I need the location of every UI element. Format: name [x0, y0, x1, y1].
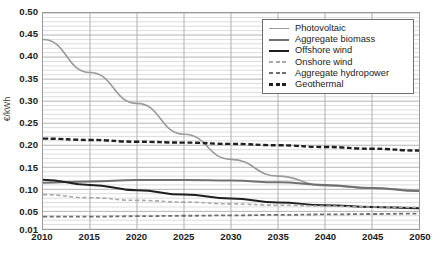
legend-label: Geothermal — [295, 79, 344, 90]
x-tick-2035: 2035 — [255, 232, 301, 242]
x-tick-2045: 2045 — [350, 232, 396, 242]
y-axis-tick-labels: 0.010.050.100.150.200.250.300.350.400.45… — [0, 0, 38, 253]
legend-swatch-icon — [268, 80, 290, 90]
legend-label: Aggregate hydropower — [295, 68, 389, 79]
x-tick-2015: 2015 — [66, 232, 112, 242]
legend-swatch-icon — [268, 57, 290, 67]
y-tick-0-35: 0.35 — [2, 74, 38, 84]
x-tick-2030: 2030 — [208, 232, 254, 242]
y-tick-0-40: 0.40 — [2, 51, 38, 61]
series-line-onshore-wind — [43, 195, 419, 208]
x-tick-2050: 2050 — [397, 232, 435, 242]
legend-label: Photovoltaic — [295, 23, 346, 34]
y-tick-0-50: 0.50 — [2, 7, 38, 17]
legend-swatch-icon — [268, 46, 290, 56]
x-axis-tick-labels: 201020152020202520302035204020452050 — [0, 232, 427, 250]
legend-item-aggregate-hydropower[interactable]: Aggregate hydropower — [268, 68, 409, 79]
y-tick-0-25: 0.25 — [2, 118, 38, 128]
y-tick-0-20: 0.20 — [2, 140, 38, 150]
y-tick-0-05: 0.05 — [2, 207, 38, 217]
legend-item-geothermal[interactable]: Geothermal — [268, 79, 409, 90]
legend-swatch-icon — [268, 24, 290, 34]
legend-swatch-icon — [268, 35, 290, 45]
y-tick-0-30: 0.30 — [2, 96, 38, 106]
x-tick-2025: 2025 — [161, 232, 207, 242]
series-line-aggregate-hydropower — [43, 214, 419, 217]
x-tick-2020: 2020 — [114, 232, 160, 242]
y-tick-0-10: 0.10 — [2, 185, 38, 195]
legend-label: Aggregate biomass — [295, 34, 375, 45]
legend-item-offshore-wind[interactable]: Offshore wind — [268, 45, 409, 56]
legend-item-photovoltaic[interactable]: Photovoltaic — [268, 23, 409, 34]
legend-label: Onshore wind — [295, 57, 352, 68]
legend-item-aggregate-biomass[interactable]: Aggregate biomass — [268, 34, 409, 45]
legend-item-onshore-wind[interactable]: Onshore wind — [268, 57, 409, 68]
x-tick-2010: 2010 — [19, 232, 65, 242]
y-tick-0-15: 0.15 — [2, 163, 38, 173]
x-tick-2040: 2040 — [303, 232, 349, 242]
series-line-geothermal — [43, 139, 419, 151]
legend-label: Offshore wind — [295, 45, 352, 56]
legend-swatch-icon — [268, 68, 290, 78]
chart-legend: PhotovoltaicAggregate biomassOffshore wi… — [262, 19, 414, 94]
y-tick-0-45: 0.45 — [2, 29, 38, 39]
